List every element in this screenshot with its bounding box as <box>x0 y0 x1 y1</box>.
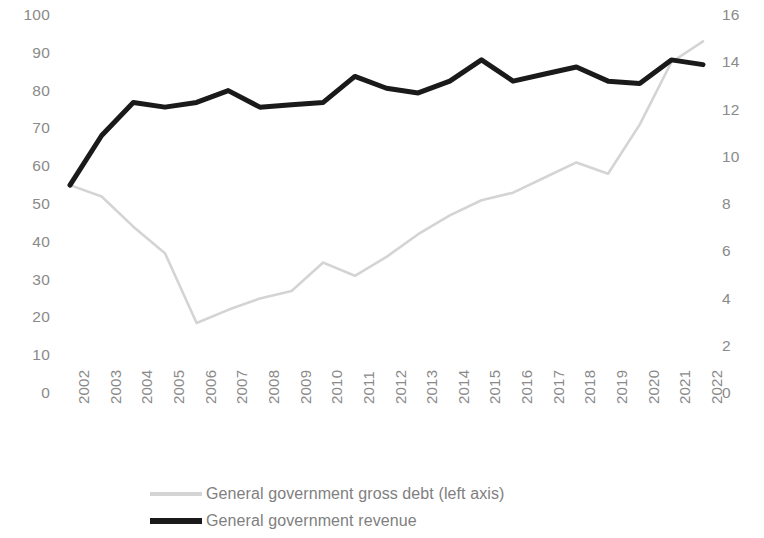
x-axis-tick: 2009 <box>298 370 313 404</box>
x-axis-tick: 2005 <box>171 370 186 404</box>
y-axis-left-tick: 80 <box>8 83 50 99</box>
y-axis-right-tick: 16 <box>722 7 762 23</box>
y-axis-left-tick: 20 <box>8 309 50 325</box>
x-axis-tick: 2003 <box>108 370 123 404</box>
y-axis-right-tick: 12 <box>722 102 762 118</box>
legend-label-revenue: General government revenue <box>206 512 417 530</box>
x-axis-tick: 2022 <box>709 370 724 404</box>
y-axis-right-tick: 2 <box>722 338 762 354</box>
y-axis-left-tick: 10 <box>8 347 50 363</box>
y-axis-right-tick: 10 <box>722 149 762 165</box>
plot-area <box>0 0 764 538</box>
legend-swatch-revenue-icon <box>150 518 202 524</box>
y-axis-right-tick: 14 <box>722 54 762 70</box>
x-axis-tick: 2006 <box>203 370 218 404</box>
y-axis-left-tick: 0 <box>8 385 50 401</box>
y-axis-right-tick: 6 <box>722 243 762 259</box>
y-axis-left-tick: 40 <box>8 234 50 250</box>
x-axis-tick: 2010 <box>329 370 344 404</box>
x-axis-tick: 2004 <box>139 370 154 404</box>
y-axis-left-tick: 90 <box>8 45 50 61</box>
y-axis-left-tick: 70 <box>8 120 50 136</box>
y-axis-left-tick: 30 <box>8 272 50 288</box>
x-axis-tick: 2021 <box>677 370 692 404</box>
x-axis-tick: 2007 <box>234 370 249 404</box>
x-axis-tick: 2020 <box>646 370 661 404</box>
legend-label-debt: General government gross debt (left axis… <box>206 485 504 503</box>
x-axis-tick: 2002 <box>76 370 91 404</box>
y-axis-left-tick: 60 <box>8 158 50 174</box>
y-axis-right-tick: 8 <box>722 196 762 212</box>
chart-container: 1009080706050403020100 1614121086420 200… <box>0 0 764 538</box>
x-axis-tick: 2016 <box>519 370 534 404</box>
y-axis-right-tick: 0 <box>722 385 762 401</box>
legend-item-debt[interactable]: General government gross debt (left axis… <box>150 480 670 507</box>
x-axis-tick: 2018 <box>582 370 597 404</box>
series-line <box>70 60 703 185</box>
x-axis-tick: 2015 <box>487 370 502 404</box>
x-axis-tick: 2012 <box>393 370 408 404</box>
chart-legend: General government gross debt (left axis… <box>150 480 670 534</box>
x-axis-tick: 2008 <box>266 370 281 404</box>
x-axis-tick: 2019 <box>614 370 629 404</box>
x-axis-tick: 2011 <box>361 371 376 404</box>
x-axis-tick: 2013 <box>424 370 439 404</box>
legend-item-revenue[interactable]: General government revenue <box>150 507 670 534</box>
legend-swatch-debt-icon <box>150 492 202 496</box>
y-axis-left-tick: 50 <box>8 196 50 212</box>
y-axis-right-tick: 4 <box>722 291 762 307</box>
y-axis-left-tick: 100 <box>8 7 50 23</box>
series-line <box>70 41 703 323</box>
x-axis-tick: 2014 <box>456 370 471 404</box>
x-axis-tick: 2017 <box>551 370 566 404</box>
